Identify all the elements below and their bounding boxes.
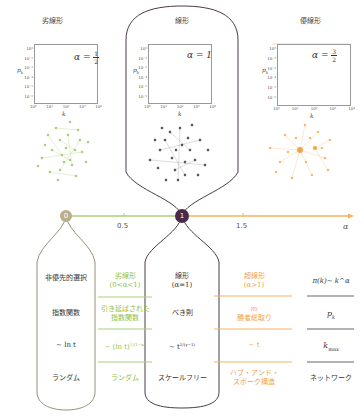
plot-linear-alpha: α = 1 — [187, 50, 212, 60]
alpha-tick-1.5: 1.5 — [236, 222, 247, 230]
linear-network: スケールフリー — [146, 374, 218, 383]
panel-sublinear-title: 劣線形 — [12, 15, 92, 25]
plot-superlinear-alpha: α = 32 — [312, 48, 337, 63]
plot-sublinear-xticks: 10⁰10¹10²10³10⁴ — [30, 104, 102, 109]
row-label-kmax: kmax — [304, 341, 358, 354]
plot-linear-yticks: 10⁰10⁻¹10⁻²10⁻⁴10⁻⁵10⁻⁶ — [135, 44, 147, 101]
nonpref-kmax: ∼ ln t — [36, 341, 96, 350]
sublinear-degree-dist: 引き延ばされた指数関数 — [96, 305, 154, 323]
plot-sublinear-xlabel: k — [62, 110, 66, 117]
nonpref-header: 非優先的選択 — [36, 274, 96, 283]
superlinear-degree-dist: m勝者総取り — [218, 305, 290, 323]
sublinear-header: 劣線形(0<α<1) — [96, 272, 154, 290]
row-label-attachment: π(k)∼ k^α — [304, 277, 358, 286]
nonpref-degree-dist: 指数関数 — [36, 309, 96, 318]
linear-header: 線形(α=1) — [150, 272, 214, 290]
alpha-one-node: 1 — [175, 209, 189, 223]
superlinear-kmax: ∼ t — [218, 341, 290, 350]
alpha-zero-node: 0 — [60, 210, 72, 222]
plot-superlinear-xlabel: k — [310, 112, 314, 119]
plot-linear-xticks: 10⁰10¹10²10³10⁴ — [144, 104, 216, 109]
row-label-degree-dist: pk — [304, 309, 358, 322]
superlinear-header: 超線形(α>1) — [218, 272, 290, 290]
sublinear-kmax: ∼ (ln t)1/(1−α) — [96, 340, 154, 352]
plot-sublinear-yticks: 10⁰10⁻¹10⁻²10⁻⁴10⁻⁵10⁻⁶ — [21, 44, 33, 101]
alpha-tick-0.5: 0.5 — [117, 222, 128, 230]
plot-linear-xlabel: k — [178, 110, 182, 117]
superlinear-network: ハブ・アンド・スポーク構造 — [218, 369, 290, 387]
linear-degree-dist: べき則 — [150, 309, 214, 318]
alpha-axis-label: α — [343, 222, 348, 231]
linear-kmax: ∼ t1/(γ−1) — [150, 340, 214, 352]
panel-superlinear-title: 優線形 — [270, 15, 350, 25]
plot-sublinear-alpha: α = 12 — [74, 50, 99, 65]
row-label-network: ネットワーク — [304, 374, 358, 383]
nonpref-network: ランダム — [36, 374, 96, 383]
plot-superlinear-yticks: 10⁰10⁻¹10⁻²10⁻⁴10⁻⁵10⁻⁶ — [264, 44, 276, 103]
plot-superlinear-xticks: 10⁰10¹10²10³10⁴ — [273, 106, 355, 111]
panel-linear-title: 線形 — [142, 15, 222, 25]
